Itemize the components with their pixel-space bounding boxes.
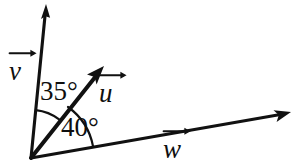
vector-label-w: w (163, 136, 181, 163)
vector-label-v-glyph: v (9, 58, 21, 85)
vector-label-u-glyph: u (99, 80, 113, 107)
angle-label-35: 35° (40, 78, 78, 105)
vector-label-w-text: w (163, 134, 181, 164)
vector-angle-figure: v u w 35° 40° (0, 0, 296, 165)
vector-label-v-text: v (9, 56, 21, 86)
vector-label-u-text: u (99, 78, 113, 108)
vector-label-v: v (9, 58, 21, 85)
angle-arc-35 (36, 110, 59, 119)
vector-label-u: u (99, 80, 113, 107)
angle-label-40: 40° (61, 114, 99, 141)
vector-label-w-glyph: w (163, 136, 181, 163)
